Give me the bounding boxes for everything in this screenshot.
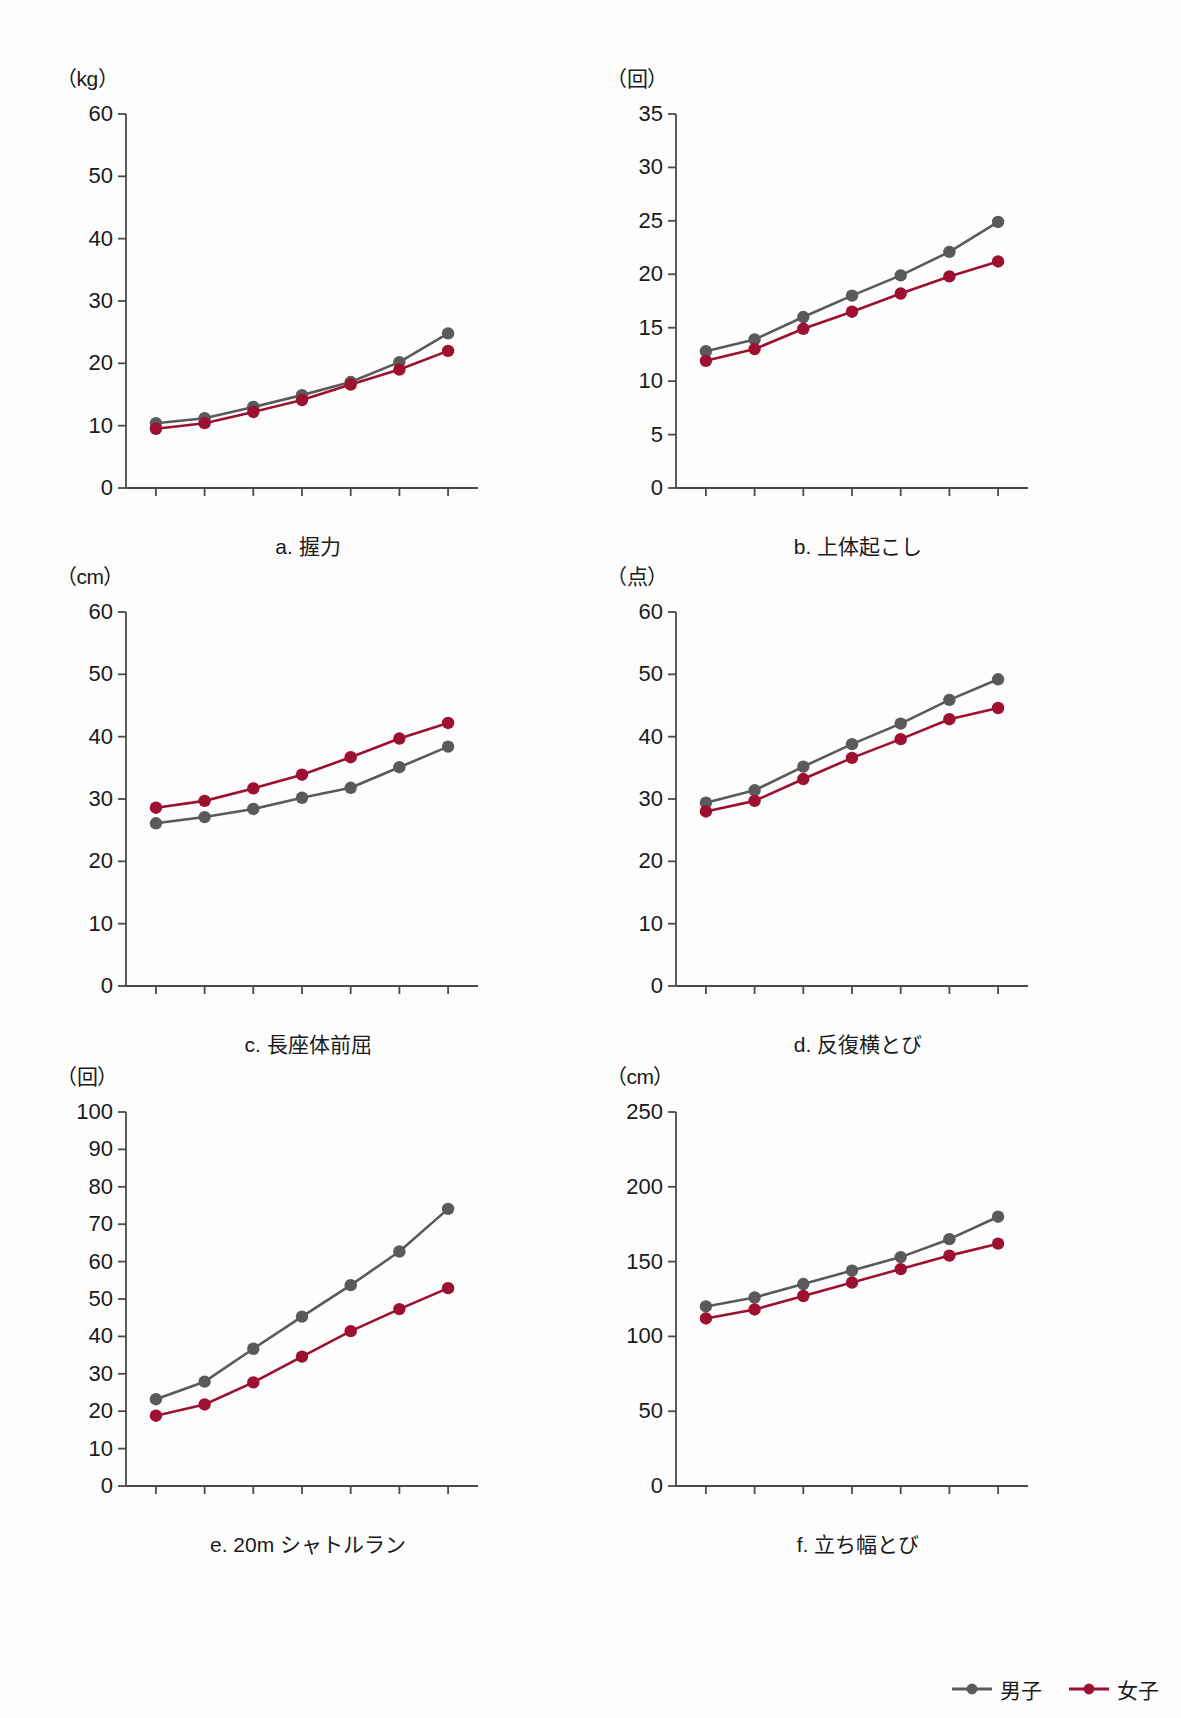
y-tick-label: 30 (639, 154, 663, 179)
data-point-boys (247, 1343, 259, 1355)
y-tick-label: 0 (651, 475, 663, 496)
plot-area-d: 01020304050606789101112（歳） (598, 594, 1118, 994)
y-tick-label: 40 (89, 1323, 113, 1348)
data-point-girls (198, 795, 210, 807)
data-point-girls (992, 1237, 1004, 1249)
chart-f: （cm）0501001502002506789101112（歳）f. 立ち幅とび (598, 1060, 1118, 1560)
y-tick-label: 100 (626, 1323, 663, 1348)
data-point-girls (393, 1303, 405, 1315)
data-point-boys (797, 311, 809, 323)
y-axis-unit-label-a: （kg） (56, 62, 118, 92)
chart-caption-c: c. 長座体前屈 (48, 1028, 568, 1058)
data-point-girls (247, 1376, 259, 1388)
data-point-girls (894, 733, 906, 745)
plot-svg-a: 01020304050606789101112（歳） (48, 96, 568, 496)
y-tick-label: 20 (639, 848, 663, 873)
data-point-girls (700, 805, 712, 817)
figure-page: （kg）01020304050606789101112（歳）a. 握力（回）05… (0, 0, 1181, 1718)
data-point-boys (296, 792, 308, 804)
y-tick-label: 50 (639, 661, 663, 686)
data-point-boys (344, 1279, 356, 1291)
data-point-girls (992, 255, 1004, 267)
plot-area-e: 01020304050607080901006789101112（歳） (48, 1094, 568, 1494)
y-tick-label: 30 (89, 786, 113, 811)
data-point-boys (442, 327, 454, 339)
data-point-boys (943, 246, 955, 258)
y-tick-label: 20 (89, 848, 113, 873)
data-point-girls (992, 702, 1004, 714)
y-tick-label: 60 (89, 1249, 113, 1274)
y-tick-label: 50 (89, 163, 113, 188)
data-point-boys (700, 1300, 712, 1312)
data-point-boys (943, 694, 955, 706)
y-axis-unit-label-e: （回） (56, 1060, 118, 1090)
y-tick-label: 0 (101, 973, 113, 994)
y-tick-label: 50 (89, 661, 113, 686)
data-point-boys (894, 269, 906, 281)
y-axis-unit-label-c: （cm） (56, 560, 124, 590)
y-tick-label: 60 (89, 599, 113, 624)
chart-caption-d: d. 反復横とび (598, 1028, 1118, 1058)
chart-caption-a: a. 握力 (48, 530, 568, 560)
data-point-girls (943, 270, 955, 282)
y-tick-label: 10 (639, 368, 663, 393)
data-point-girls (442, 717, 454, 729)
data-point-boys (943, 1233, 955, 1245)
y-tick-label: 40 (89, 724, 113, 749)
data-point-boys (393, 761, 405, 773)
y-tick-label: 250 (626, 1099, 663, 1124)
y-tick-label: 0 (101, 475, 113, 496)
data-point-boys (748, 784, 760, 796)
legend-swatch-girls (1068, 1681, 1110, 1697)
data-point-girls (393, 363, 405, 375)
y-tick-label: 20 (89, 1398, 113, 1423)
data-point-girls (296, 1350, 308, 1362)
data-point-girls (344, 378, 356, 390)
data-point-girls (198, 417, 210, 429)
chart-d: （点）01020304050606789101112（歳）d. 反復横とび (598, 560, 1118, 1060)
y-tick-label: 100 (76, 1099, 113, 1124)
data-point-boys (198, 811, 210, 823)
data-point-girls (700, 1312, 712, 1324)
data-point-boys (846, 1264, 858, 1276)
chart-e: （回）01020304050607080901006789101112（歳）e.… (48, 1060, 568, 1560)
y-tick-label: 10 (89, 413, 113, 438)
y-tick-label: 70 (89, 1211, 113, 1236)
plot-svg-e: 01020304050607080901006789101112（歳） (48, 1094, 568, 1494)
data-point-girls (846, 752, 858, 764)
legend-item-boys: 男子 (951, 1674, 1042, 1704)
data-point-boys (894, 717, 906, 729)
y-axis-unit-label-d: （点） (606, 560, 668, 590)
y-tick-label: 35 (639, 101, 663, 126)
plot-svg-d: 01020304050606789101112（歳） (598, 594, 1118, 994)
data-point-girls (748, 795, 760, 807)
data-point-girls (393, 732, 405, 744)
data-point-girls (442, 345, 454, 357)
y-tick-label: 20 (89, 350, 113, 375)
y-tick-label: 25 (639, 208, 663, 233)
data-point-girls (150, 423, 162, 435)
y-tick-label: 90 (89, 1136, 113, 1161)
series-line-boys (156, 333, 448, 423)
data-point-girls (442, 1282, 454, 1294)
y-tick-label: 15 (639, 315, 663, 340)
data-point-boys (296, 1310, 308, 1322)
y-axis-unit-label-b: （回） (606, 62, 668, 92)
data-point-girls (748, 1303, 760, 1315)
y-tick-label: 200 (626, 1174, 663, 1199)
data-point-boys (797, 760, 809, 772)
data-point-boys (992, 216, 1004, 228)
data-point-girls (797, 1290, 809, 1302)
y-tick-label: 10 (639, 911, 663, 936)
data-point-boys (344, 782, 356, 794)
y-tick-label: 30 (89, 288, 113, 313)
data-point-girls (344, 1325, 356, 1337)
data-point-boys (748, 1291, 760, 1303)
plot-area-f: 0501001502002506789101112（歳） (598, 1094, 1118, 1494)
series-line-boys (706, 1217, 998, 1307)
data-point-girls (198, 1398, 210, 1410)
series-line-boys (156, 747, 448, 824)
legend-label-girls: 女子 (1117, 1674, 1159, 1704)
data-point-girls (894, 1263, 906, 1275)
y-tick-label: 20 (639, 261, 663, 286)
